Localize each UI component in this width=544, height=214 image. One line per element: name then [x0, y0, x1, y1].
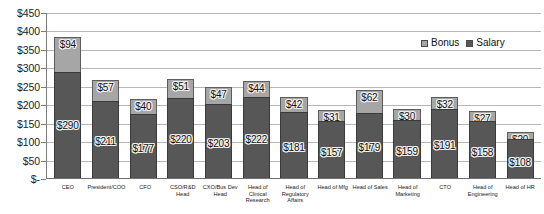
bar-stack[interactable]: $51$220: [167, 79, 194, 179]
bar-stack[interactable]: $31$157: [318, 110, 345, 179]
bar-column[interactable]: $62$179: [351, 13, 389, 179]
bar-column[interactable]: $31$157: [313, 13, 351, 179]
y-axis-tick-mark: [41, 142, 46, 143]
x-axis-tick-label: Head of Sales: [351, 181, 389, 214]
bar-segment-salary[interactable]: $191: [431, 109, 458, 179]
bar-segment-bonus[interactable]: $47: [205, 87, 232, 104]
bar-stack[interactable]: $94$290: [54, 37, 81, 179]
x-axis-tick-label: CFO: [126, 181, 164, 214]
x-axis-tick-label: Head of Engineering: [464, 181, 502, 214]
bar-segment-bonus[interactable]: $44: [243, 81, 270, 97]
bar-segment-bonus[interactable]: $42: [280, 97, 307, 112]
bar-segment-bonus[interactable]: $57: [92, 80, 119, 101]
bar-stack[interactable]: $42$181: [280, 97, 307, 179]
bar-segment-salary[interactable]: $220: [167, 98, 194, 179]
y-axis-tick-label: $50: [23, 156, 40, 166]
bar-segment-salary[interactable]: $290: [54, 72, 81, 179]
y-axis-tick-label: $250: [17, 82, 40, 92]
bar-column[interactable]: $40$177: [124, 13, 162, 179]
x-axis-tick-label: Head of HR: [501, 181, 539, 214]
bar-value-label-salary: $159: [396, 147, 417, 157]
bar-value-label-bonus: $51: [173, 82, 189, 92]
bar-value-label-bonus: $57: [97, 83, 113, 93]
bar-column[interactable]: $47$203: [200, 13, 238, 179]
bar-value-label-bonus: $62: [361, 93, 377, 103]
bar-value-label-salary: $157: [321, 148, 342, 158]
bar-value-label-bonus: $44: [248, 84, 264, 94]
y-axis-tick-mark: [41, 179, 46, 180]
bar-segment-bonus[interactable]: $51: [167, 79, 194, 98]
y-axis-tick-label: $150: [17, 119, 40, 129]
y-axis-tick-mark: [41, 161, 46, 162]
y-axis-tick-mark: [41, 124, 46, 125]
y-axis-tick-mark: [41, 50, 46, 51]
x-axis-tick-label: CEO: [49, 181, 87, 214]
x-axis-tick-label: Head of Mfg: [314, 181, 352, 214]
bar-stack[interactable]: $57$211: [92, 80, 119, 179]
y-axis-tick-label: $200: [17, 100, 40, 110]
legend-label: Salary: [476, 38, 504, 48]
bar-segment-salary[interactable]: $158: [469, 121, 496, 179]
bar-stack[interactable]: $32$191: [431, 97, 458, 179]
bar-value-label-salary: $203: [208, 139, 229, 149]
x-axis-tick-label: CTO: [426, 181, 464, 214]
bar-segment-bonus[interactable]: $32: [431, 97, 458, 109]
bar-stack[interactable]: $27$158: [469, 111, 496, 179]
legend-item[interactable]: Salary: [466, 38, 504, 48]
bar-value-label-salary: $211: [95, 137, 116, 147]
bar-value-label-salary: $220: [170, 135, 191, 145]
bar-segment-salary[interactable]: $222: [243, 97, 270, 179]
bar-value-label-bonus: $42: [286, 100, 302, 110]
y-axis-tick-label: $450: [17, 8, 40, 18]
bar-segment-bonus[interactable]: $20: [507, 132, 534, 139]
bar-segment-bonus[interactable]: $40: [130, 99, 157, 114]
x-axis-tick-label: Head of Regulatory Affairs: [276, 181, 314, 214]
bar-segment-salary[interactable]: $157: [318, 121, 345, 179]
bar-stack[interactable]: $62$179: [356, 90, 383, 179]
bar-segment-salary[interactable]: $179: [356, 113, 383, 179]
bar-segment-bonus[interactable]: $62: [356, 90, 383, 113]
bar-segment-salary[interactable]: $177: [130, 114, 157, 179]
bar-segment-salary[interactable]: $159: [393, 120, 420, 179]
bar-value-label-salary: $222: [246, 135, 267, 145]
y-axis-tick-label: $100: [17, 137, 40, 147]
bar-segment-bonus[interactable]: $94: [54, 37, 81, 72]
y-axis-tick-mark: [41, 87, 46, 88]
bar-value-label-salary: $108: [509, 158, 530, 168]
bar-column[interactable]: $94$290: [49, 13, 87, 179]
bar-value-label-salary: $179: [359, 143, 380, 153]
y-axis-tick-label: $300: [17, 63, 40, 73]
bar-segment-bonus[interactable]: $30: [393, 109, 420, 120]
bar-column[interactable]: $51$220: [162, 13, 200, 179]
bar-column[interactable]: $42$181: [275, 13, 313, 179]
bar-column[interactable]: $57$211: [87, 13, 125, 179]
bar-value-label-bonus: $47: [211, 90, 227, 100]
y-axis-tick-label: $350: [17, 45, 40, 55]
bar-stack[interactable]: $44$222: [243, 81, 270, 179]
bar-segment-bonus[interactable]: $27: [469, 111, 496, 121]
x-axis-tick-label: Head of Marketing: [389, 181, 427, 214]
bar-stack[interactable]: $47$203: [205, 87, 232, 179]
bar-segment-salary[interactable]: $211: [92, 101, 119, 179]
stacked-bar-chart: $450$400$350$300$250$200$150$100$50$- $9…: [0, 0, 544, 214]
legend-swatch-icon: [421, 40, 428, 47]
bar-column[interactable]: $44$222: [237, 13, 275, 179]
bar-segment-bonus[interactable]: $31: [318, 110, 345, 121]
y-axis-tick-mark: [41, 68, 46, 69]
x-axis: CEOPresident/COOCFOCSO/R&D HeadCXO/Bus D…: [47, 181, 541, 214]
bar-stack[interactable]: $20$108: [507, 132, 534, 179]
x-axis-tick-label: CXO/Bus Dev Head: [201, 181, 239, 214]
bar-stack[interactable]: $30$159: [393, 109, 420, 179]
bar-value-label-bonus: $94: [60, 40, 76, 50]
y-axis-tick-mark: [41, 105, 46, 106]
legend-swatch-icon: [466, 40, 473, 47]
bar-stack[interactable]: $40$177: [130, 99, 157, 179]
x-axis-tick-label: Head of Clinical Research: [239, 181, 277, 214]
y-axis: $450$400$350$300$250$200$150$100$50$-: [0, 0, 44, 179]
bar-segment-salary[interactable]: $203: [205, 104, 232, 179]
y-axis-tick-label: $400: [17, 26, 40, 36]
bar-value-label-salary: $177: [132, 144, 153, 154]
legend-item[interactable]: Bonus: [421, 38, 459, 48]
bar-segment-salary[interactable]: $108: [507, 139, 534, 179]
bar-segment-salary[interactable]: $181: [280, 112, 307, 179]
